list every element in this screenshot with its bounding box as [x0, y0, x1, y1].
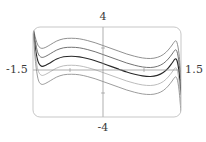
y-axis-min-label: -4 [97, 122, 108, 133]
x-axis-max-label: 1.5 [185, 64, 203, 75]
x-axis-min-label: -1.5 [6, 64, 28, 75]
plot-curve [33, 27, 181, 86]
plot-figure: 4 -4 -1.5 1.5 [0, 0, 206, 142]
plot-frame-border [33, 27, 181, 117]
axis-ticks [70, 48, 144, 93]
plot-curve [33, 27, 181, 95]
y-axis-max-label: 4 [99, 11, 106, 22]
